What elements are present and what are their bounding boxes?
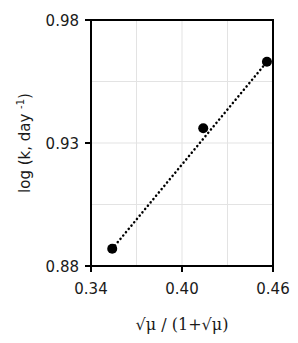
y-axis-ticks: 0.880.930.98	[46, 12, 91, 276]
data-point	[198, 123, 208, 133]
y-axis-label: log (k, day -1)	[15, 93, 34, 193]
chart: 0.880.930.98 0.340.400.46 log (k, day -1…	[0, 0, 298, 343]
y-tick-label: 0.88	[46, 258, 79, 276]
x-axis-ticks: 0.340.400.46	[74, 266, 289, 298]
x-tick-label: 0.34	[74, 280, 107, 298]
x-tick-label: 0.40	[165, 280, 198, 298]
data-point	[107, 244, 117, 254]
gridlines	[91, 20, 273, 266]
data-point	[262, 57, 272, 67]
x-axis-label: √μ / (1+√μ)	[136, 315, 229, 334]
y-tick-label: 0.98	[46, 12, 79, 30]
trendline	[112, 62, 267, 249]
x-tick-label: 0.46	[256, 280, 289, 298]
trendline-dotted	[112, 62, 267, 249]
y-tick-label: 0.93	[46, 135, 79, 153]
